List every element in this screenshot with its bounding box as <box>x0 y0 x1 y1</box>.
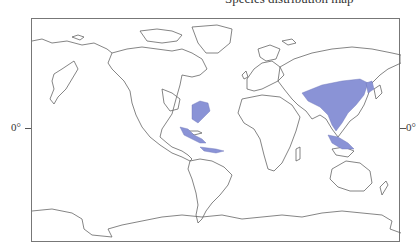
world-map <box>32 19 401 243</box>
africa <box>238 95 300 171</box>
region-central-america <box>180 127 206 143</box>
highlighted-regions <box>180 79 374 153</box>
madagascar <box>296 147 300 161</box>
region-japan <box>366 81 374 93</box>
japan <box>374 85 382 99</box>
coastlines <box>32 25 401 237</box>
south-america <box>188 159 232 223</box>
uk <box>242 71 248 79</box>
north-america <box>108 47 207 161</box>
equator-label-left: 0° <box>11 121 21 133</box>
region-eastern-north-america <box>192 101 210 123</box>
scandinavia <box>258 45 280 61</box>
antarctica <box>32 209 401 237</box>
equator-label-right: 0° <box>406 121 416 133</box>
greenland <box>192 25 232 53</box>
region-northern-south-america <box>200 147 224 153</box>
region-east-asia <box>302 79 368 131</box>
new-zealand <box>380 181 388 195</box>
novaya-zemlya <box>282 39 296 45</box>
canadian-arctic-islands <box>140 29 182 43</box>
map-title: Species distribution map <box>225 0 354 7</box>
australia <box>330 161 372 191</box>
map-frame <box>31 18 400 242</box>
siberia-coast-left <box>32 39 112 53</box>
island-left-1 <box>72 35 84 40</box>
region-southeast-asia <box>328 135 354 149</box>
hudson-bay <box>162 89 180 111</box>
kamchatka-left <box>50 61 78 104</box>
